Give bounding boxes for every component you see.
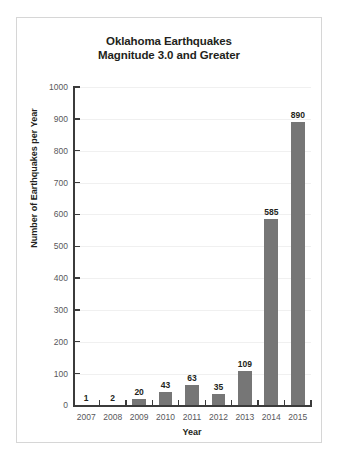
x-axis-tick-label: 2011 — [183, 412, 201, 422]
x-axis-tick-label: 2007 — [77, 412, 96, 422]
y-axis-tick-label: 600 — [54, 209, 68, 219]
chart-figure: Oklahoma Earthquakes Magnitude 3.0 and G… — [16, 17, 322, 443]
y-axis-tick-label: 0 — [63, 400, 68, 410]
bar-value-label: 43 — [161, 380, 170, 390]
bar: 585 — [264, 219, 278, 405]
y-axis-tick-label: 500 — [54, 241, 68, 251]
y-axis-tick-label: 100 — [54, 369, 68, 379]
bar-value-label: 2 — [110, 393, 115, 403]
gridline — [73, 151, 311, 152]
gridline — [73, 119, 311, 120]
bar-value-label: 20 — [134, 387, 143, 397]
bar: 35 — [212, 394, 226, 405]
y-axis-line — [73, 87, 75, 407]
bar-value-label: 585 — [264, 207, 278, 217]
bar: 890 — [291, 122, 305, 405]
x-axis-tick-label: 2013 — [235, 412, 254, 422]
x-axis-tick-label: 2008 — [103, 412, 122, 422]
x-axis-line — [73, 405, 311, 407]
y-axis-tick-label: 1000 — [49, 82, 68, 92]
x-axis-tick-label: 2012 — [209, 412, 228, 422]
y-axis-tick-label: 700 — [54, 178, 68, 188]
x-axis-tick-label: 2014 — [262, 412, 281, 422]
y-axis-tick-label: 900 — [54, 114, 68, 124]
y-axis-tick-label: 400 — [54, 273, 68, 283]
bar-value-label: 109 — [238, 359, 252, 369]
plot-area: 01002003004005006007008009001000 1220436… — [73, 87, 311, 407]
bar: 63 — [185, 385, 199, 405]
y-axis-tick-label: 200 — [54, 337, 68, 347]
y-axis-tick-label: 800 — [54, 146, 68, 156]
x-axis-title: Year — [73, 427, 311, 437]
bar: 109 — [238, 371, 252, 406]
x-axis-tick-label: 2010 — [156, 412, 175, 422]
chart-title-line-2: Magnitude 3.0 and Greater — [17, 49, 321, 63]
x-axis-tick-label: 2015 — [288, 412, 307, 422]
chart-title: Oklahoma Earthquakes Magnitude 3.0 and G… — [17, 35, 321, 62]
chart-title-line-1: Oklahoma Earthquakes — [17, 35, 321, 49]
y-axis-title: Number of Earthquakes per Year — [29, 78, 39, 278]
x-axis-tick-label: 2009 — [130, 412, 149, 422]
bar-value-label: 63 — [187, 373, 196, 383]
bar-value-label: 890 — [291, 110, 305, 120]
y-axis-tick-label: 300 — [54, 305, 68, 315]
bar: 43 — [159, 392, 173, 406]
bar-value-label: 1 — [84, 393, 89, 403]
gridline — [73, 87, 311, 88]
bar-value-label: 35 — [214, 382, 223, 392]
gridline — [73, 183, 311, 184]
